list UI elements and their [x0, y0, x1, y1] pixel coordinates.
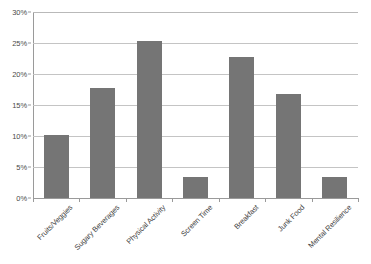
x-axis-tick-mark: [358, 198, 359, 202]
y-axis-tick-label: 0%: [16, 194, 27, 203]
bar-slot: [33, 12, 79, 198]
bar[interactable]: [276, 94, 301, 198]
bar[interactable]: [137, 41, 162, 198]
bar-series: [33, 12, 358, 198]
y-axis-tick-mark: [28, 136, 31, 137]
bar-slot: [219, 12, 265, 198]
x-axis-tick-label-text: Fruits/Veggies: [36, 203, 75, 242]
y-axis-tick-label: 10%: [12, 132, 27, 141]
y-axis-tick-mark: [28, 167, 31, 168]
y-axis-tick-label: 15%: [12, 101, 27, 110]
x-axis-tick-label-text: Sugary Beverages: [72, 203, 121, 252]
y-axis-tick-label: 5%: [16, 163, 27, 172]
x-axis-tick-label-text: Junk Food: [276, 203, 306, 233]
bar[interactable]: [322, 177, 347, 198]
bar-chart: 0%5%10%15%20%25%30% Fruits/VeggiesSugary…: [0, 0, 371, 264]
y-axis-tick-mark: [28, 12, 31, 13]
x-axis-tick-label-text: Breakfast: [232, 203, 260, 231]
bar-slot: [172, 12, 218, 198]
bar-slot: [126, 12, 172, 198]
y-axis-tick-label: 20%: [12, 70, 27, 79]
y-axis-tick-labels: 0%5%10%15%20%25%30%: [0, 12, 31, 198]
x-axis-tick-label-text: Mental Resilience: [306, 203, 353, 250]
x-axis-tick-label-text: Physical Activity: [125, 203, 168, 246]
bar-slot: [312, 12, 358, 198]
y-axis-tick-mark: [28, 105, 31, 106]
plot-area: [33, 12, 358, 198]
y-axis-tick-mark: [28, 74, 31, 75]
bar[interactable]: [229, 57, 254, 198]
x-axis-tick-label-text: Screen Time: [179, 203, 214, 238]
x-axis-tick-labels: Fruits/VeggiesSugary BeveragesPhysical A…: [33, 200, 358, 264]
y-axis-tick-mark: [28, 198, 31, 199]
y-axis-tick-label: 30%: [12, 8, 27, 17]
bar[interactable]: [44, 135, 69, 198]
bar-slot: [79, 12, 125, 198]
y-axis-tick-mark: [28, 43, 31, 44]
y-axis-tick-label: 25%: [12, 39, 27, 48]
bar[interactable]: [183, 177, 208, 198]
bar[interactable]: [90, 88, 115, 198]
bar-slot: [265, 12, 311, 198]
